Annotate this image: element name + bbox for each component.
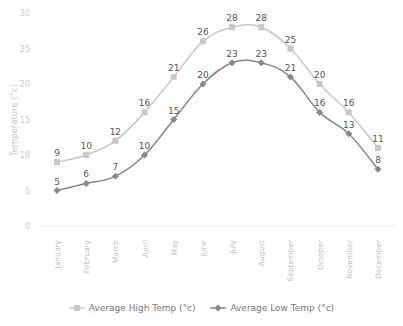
x-tick-label: December <box>374 239 383 279</box>
data-label: 28 <box>226 13 238 23</box>
series-low: 56710152023232116138 <box>54 49 382 194</box>
y-tick-label: 15 <box>20 116 30 125</box>
x-tick-label: February <box>82 239 91 273</box>
data-point[interactable] <box>229 59 236 66</box>
data-label: 11 <box>372 134 383 144</box>
series-layer: 9101216212628282520161156710152023232116… <box>54 13 384 194</box>
x-tick-label: April <box>141 240 150 257</box>
line-chart: 051015202530 Temperature (°c) JanuaryFeb… <box>0 0 403 300</box>
data-point[interactable] <box>258 59 265 66</box>
data-point[interactable] <box>200 38 206 44</box>
y-tick-label: 30 <box>20 9 30 18</box>
data-label: 9 <box>54 148 60 158</box>
data-label: 5 <box>54 177 60 187</box>
x-tick-label: September <box>286 239 295 281</box>
x-tick-label: March <box>111 240 120 263</box>
data-point[interactable] <box>112 173 119 180</box>
legend-label-high: Average High Temp (°c) <box>89 303 196 313</box>
data-label: 15 <box>168 106 179 116</box>
data-label: 16 <box>139 98 151 108</box>
data-point[interactable] <box>54 159 60 165</box>
data-label: 7 <box>112 162 118 172</box>
legend-item-low[interactable]: Average Low Temp (°c) <box>210 303 334 313</box>
data-label: 23 <box>256 49 267 59</box>
data-label: 21 <box>168 63 179 73</box>
data-label: 20 <box>314 70 326 80</box>
y-axis-label: Temperature (°c) <box>9 84 19 157</box>
data-point[interactable] <box>112 138 118 144</box>
data-point[interactable] <box>83 180 90 187</box>
data-label: 20 <box>197 70 209 80</box>
legend-item-high[interactable]: Average High Temp (°c) <box>69 303 196 313</box>
data-label: 6 <box>83 169 89 179</box>
y-tick-label: 0 <box>25 222 30 231</box>
x-tick-label: July <box>228 239 237 254</box>
data-point[interactable] <box>375 145 381 151</box>
data-label: 8 <box>375 155 381 165</box>
diamond-marker-icon <box>210 304 226 312</box>
data-label: 23 <box>226 49 237 59</box>
data-point[interactable] <box>258 24 264 30</box>
x-axis: JanuaryFebruaryMarchAprilMayJuneJulyAugu… <box>53 239 383 281</box>
data-point[interactable] <box>346 109 352 115</box>
y-tick-label: 5 <box>25 187 30 196</box>
data-point[interactable] <box>142 109 148 115</box>
data-point[interactable] <box>229 24 235 30</box>
data-label: 10 <box>139 141 151 151</box>
data-label: 25 <box>285 35 296 45</box>
data-label: 13 <box>343 120 354 130</box>
y-tick-label: 10 <box>20 151 30 160</box>
x-tick-label: October <box>316 239 325 270</box>
data-label: 10 <box>80 141 92 151</box>
data-label: 16 <box>314 98 326 108</box>
data-label: 21 <box>285 63 296 73</box>
legend: Average High Temp (°c) Average Low Temp … <box>0 303 403 314</box>
x-tick-label: January <box>53 239 62 269</box>
data-label: 26 <box>197 27 209 37</box>
data-point[interactable] <box>83 152 89 158</box>
data-label: 28 <box>256 13 268 23</box>
data-point[interactable] <box>317 81 323 87</box>
square-marker-icon <box>69 304 85 312</box>
y-axis: 051015202530 <box>20 9 30 231</box>
data-label: 12 <box>110 127 121 137</box>
x-tick-label: August <box>257 240 266 266</box>
y-tick-label: 25 <box>20 45 30 54</box>
y-tick-label: 20 <box>20 80 30 89</box>
legend-label-low: Average Low Temp (°c) <box>230 303 334 313</box>
data-label: 16 <box>343 98 355 108</box>
x-tick-label: November <box>345 239 354 279</box>
x-tick-label: June <box>199 240 208 258</box>
data-point[interactable] <box>287 46 293 52</box>
data-point[interactable] <box>54 187 61 194</box>
x-tick-label: May <box>170 239 179 255</box>
data-point[interactable] <box>171 74 177 80</box>
series-high: 91012162126282825201611 <box>54 13 384 165</box>
